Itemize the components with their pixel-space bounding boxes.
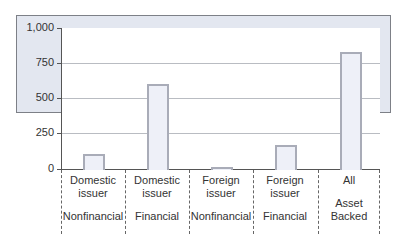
category-line1: Domestic [125,174,189,187]
category-line2: issuer [189,187,253,200]
category-group-line1: Asset [317,197,381,210]
category-group-line2: Backed [317,210,381,223]
y-tick-1000 [57,28,62,29]
y-label-0: 0 [14,162,54,174]
category-group: Nonfinancial [189,210,253,223]
category-domestic-nonfinancial: Domestic issuer Nonfinancial [61,174,125,200]
gridline-250 [62,133,380,134]
category-line2: issuer [61,187,125,200]
category-line2: issuer [125,187,189,200]
category-line2: issuer [253,187,317,200]
y-tick-500 [57,98,62,99]
category-all-asset-backed: All Asset Backed [317,174,381,187]
y-tick-250 [57,133,62,134]
category-line1: Foreign [253,174,317,187]
bar-domestic-nonfinancial [83,154,105,170]
bar-domestic-financial [147,84,169,170]
y-label-500: 500 [14,91,54,103]
bar-all-asset-backed [340,52,362,170]
category-domestic-financial: Domestic issuer Financial [125,174,189,200]
category-foreign-nonfinancial: Foreign issuer Nonfinancial [189,174,253,200]
category-group: Nonfinancial [61,210,125,223]
category-group: Financial [125,210,189,223]
gridline-500 [62,98,380,99]
category-line1: Domestic [61,174,125,187]
y-label-750: 750 [14,56,54,68]
category-line1: Foreign [189,174,253,187]
category-foreign-financial: Foreign issuer Financial [253,174,317,200]
y-label-1000: 1,000 [14,21,54,33]
category-line1: All [317,174,381,187]
plot-area [61,28,380,170]
y-label-250: 250 [14,126,54,138]
gridline-750 [62,63,380,64]
bar-foreign-financial [275,145,297,170]
category-group: Asset Backed [317,197,381,223]
y-tick-750 [57,63,62,64]
x-axis-categories: Domestic issuer Nonfinancial Domestic is… [61,170,379,234]
category-group: Financial [253,210,317,223]
